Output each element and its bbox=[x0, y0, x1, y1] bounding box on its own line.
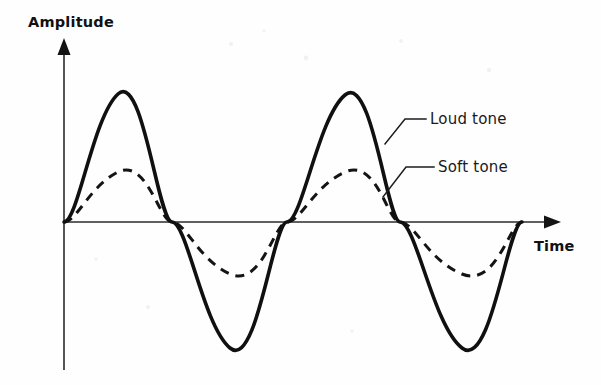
soft-tone-waveform bbox=[64, 170, 522, 276]
x-axis-label: Time bbox=[534, 238, 575, 254]
soft-tone-leader-line bbox=[383, 167, 434, 197]
loud-tone-callout: Loud tone bbox=[385, 110, 507, 144]
soft-tone-label: Soft tone bbox=[438, 158, 508, 176]
loud-tone-leader-line bbox=[385, 119, 426, 144]
loud-tone-label: Loud tone bbox=[430, 110, 507, 128]
y-axis bbox=[58, 38, 71, 370]
soft-tone-callout: Soft tone bbox=[383, 158, 508, 197]
amplitude-vs-time-figure: Loud tone Soft tone Amplitude Time bbox=[0, 0, 601, 385]
y-axis-label: Amplitude bbox=[28, 14, 114, 30]
x-axis-arrow-right bbox=[544, 216, 561, 229]
figure-page: Loud tone Soft tone Amplitude Time bbox=[0, 0, 601, 385]
x-axis bbox=[64, 216, 561, 229]
y-axis-arrow-up bbox=[58, 38, 71, 55]
